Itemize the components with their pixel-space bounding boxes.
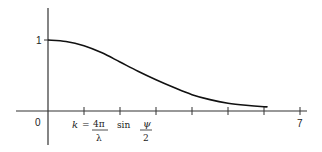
chart: 1 0 7 k = 4π λ sin ψ 2 <box>0 0 322 152</box>
svg-text:=: = <box>82 120 90 130</box>
svg-text:λ: λ <box>96 133 102 143</box>
svg-text:sin: sin <box>117 120 130 130</box>
x-tick-label-7: 7 <box>297 118 303 129</box>
svg-text:ψ: ψ <box>143 118 151 129</box>
x-tick-label-0: 0 <box>35 117 41 128</box>
x-axis-label: k = 4π λ sin ψ 2 <box>72 118 152 143</box>
svg-text:2: 2 <box>143 133 149 143</box>
y-tick-label-1: 1 <box>36 35 42 46</box>
data-curve <box>48 40 268 107</box>
svg-text:4π: 4π <box>93 119 105 129</box>
svg-text:k: k <box>72 119 78 130</box>
